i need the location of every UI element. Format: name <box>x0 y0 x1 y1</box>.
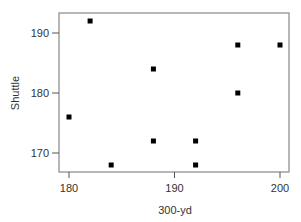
x-tick-label: 200 <box>271 182 289 194</box>
plot-frame <box>59 13 289 172</box>
y-tick-label: 190 <box>31 27 49 39</box>
data-point <box>151 67 156 72</box>
x-axis: 180190200 <box>60 172 289 194</box>
data-point <box>235 91 240 96</box>
data-point <box>151 139 156 144</box>
data-points <box>67 19 283 168</box>
scatter-chart: 170180190 180190200 300-yd Shuttle <box>0 0 301 222</box>
data-point <box>278 43 283 48</box>
data-point <box>193 139 198 144</box>
y-axis: 170180190 <box>31 27 59 159</box>
data-point <box>193 163 198 168</box>
y-axis-title: Shuttle <box>9 76 21 110</box>
x-tick-label: 190 <box>165 182 183 194</box>
data-point <box>235 43 240 48</box>
y-tick-label: 170 <box>31 147 49 159</box>
data-point <box>88 19 93 24</box>
data-point <box>67 115 72 120</box>
plot-area <box>59 13 289 172</box>
y-tick-label: 180 <box>31 87 49 99</box>
data-point <box>109 163 114 168</box>
x-axis-title: 300-yd <box>158 204 192 216</box>
x-tick-label: 180 <box>60 182 78 194</box>
